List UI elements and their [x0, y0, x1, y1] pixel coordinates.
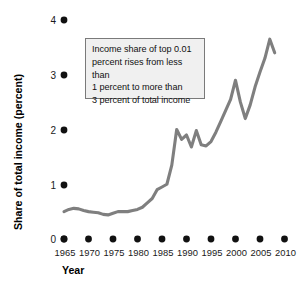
- x-tick-label-2000: 2000: [226, 247, 247, 258]
- annotation-text: Income share of top 0.01 percent rises f…: [92, 43, 201, 107]
- y-axis-tick-markers: [61, 17, 68, 243]
- y-axis-title: Share of total income (percent): [12, 74, 24, 230]
- x-tick-dot-1970: [85, 236, 92, 243]
- x-tick-label-1995: 1995: [202, 247, 223, 258]
- x-tick-label-1970: 1970: [79, 247, 100, 258]
- x-tick-label-1990: 1990: [177, 247, 198, 258]
- x-axis-tick-markers: [61, 236, 288, 243]
- x-axis-tick-labels: 1965 1970 1975 1980 1985 1990 1995 2000 …: [55, 247, 296, 258]
- x-tick-dot-2005: [257, 236, 264, 243]
- x-tick-label-1980: 1980: [128, 247, 149, 258]
- x-axis-title: Year: [62, 264, 84, 276]
- x-tick-dot-2010: [281, 236, 288, 243]
- y-tick-dot-2: [61, 127, 68, 134]
- x-tick-dot-1965: [61, 236, 68, 243]
- x-tick-dot-1975: [110, 236, 117, 243]
- y-tick-label-1: 1: [50, 180, 56, 191]
- x-tick-dot-1985: [159, 236, 166, 243]
- y-tick-label-3: 3: [50, 70, 56, 81]
- x-tick-label-1985: 1985: [153, 247, 174, 258]
- y-axis-tick-labels: 4 3 2 1 0: [50, 15, 56, 245]
- x-tick-dot-1980: [134, 236, 141, 243]
- y-tick-label-2: 2: [50, 125, 56, 136]
- chart-figure: 4 3 2 1 0 1965 1970 1975 1980 1985 1990 …: [0, 0, 307, 288]
- x-tick-dot-1990: [183, 236, 190, 243]
- x-tick-dot-2000: [232, 236, 239, 243]
- x-tick-label-2010: 2010: [275, 247, 296, 258]
- x-tick-label-2005: 2005: [251, 247, 272, 258]
- x-tick-label-1975: 1975: [104, 247, 125, 258]
- x-tick-label-1965: 1965: [55, 247, 76, 258]
- y-tick-dot-3: [61, 72, 68, 79]
- y-tick-label-0: 0: [50, 234, 56, 245]
- y-tick-dot-4: [61, 17, 68, 24]
- y-tick-dot-1: [61, 182, 68, 189]
- y-tick-label-4: 4: [50, 15, 56, 26]
- annotation-callout-box: Income share of top 0.01 percent rises f…: [85, 38, 205, 99]
- x-tick-dot-1995: [208, 236, 215, 243]
